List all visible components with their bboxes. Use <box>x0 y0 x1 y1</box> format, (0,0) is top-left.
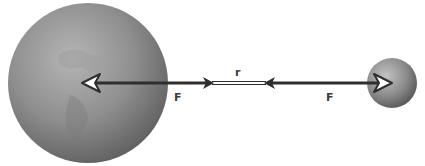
gravity-diagram <box>0 0 425 166</box>
force-label-right: F <box>326 92 334 103</box>
force-label-left: F <box>174 92 182 103</box>
distance-segment <box>212 82 266 85</box>
distance-label: r <box>235 67 240 78</box>
